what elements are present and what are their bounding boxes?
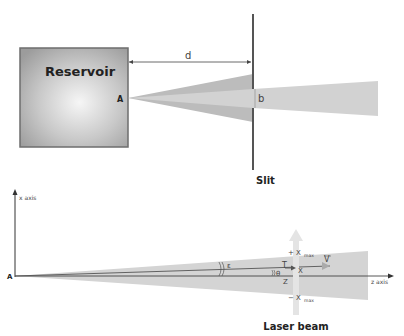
- arrowhead-right-icon: [247, 60, 251, 64]
- t-label: T: [281, 261, 287, 270]
- arrowhead-left-icon: [129, 60, 133, 64]
- x-max-minus-label: − X: [288, 294, 301, 302]
- theta-label: θ: [276, 270, 280, 278]
- z-axis-arrow-icon: [388, 274, 394, 279]
- x-max-minus-subscript: max: [304, 298, 314, 303]
- top-diagram: Reservoir A d b Slit: [20, 14, 378, 186]
- slit-label: Slit: [256, 175, 275, 186]
- point-a-label: A: [117, 95, 124, 104]
- slit-width-label: b: [258, 93, 264, 104]
- z-axis-label: z axis: [371, 278, 388, 285]
- x-axis-arrow-icon: [13, 189, 18, 195]
- reservoir-box: [20, 48, 128, 147]
- molecular-beam-diagram: Reservoir A d b Slit x axis z axis: [0, 0, 404, 336]
- reservoir-label: Reservoir: [45, 64, 116, 79]
- point-a-label-bottom: A: [7, 273, 13, 281]
- beam-cone: [15, 251, 368, 300]
- distance-label: d: [185, 50, 191, 61]
- transmitted-beam: [253, 81, 378, 116]
- laser-arrow-icon: [289, 229, 303, 241]
- epsilon-label: ε: [227, 262, 231, 270]
- x-axis-label: x axis: [19, 194, 36, 201]
- x-label: X: [298, 267, 303, 275]
- x-max-plus-label: + X: [288, 249, 301, 257]
- x-max-plus-subscript: max: [304, 253, 314, 258]
- z-label: Z: [283, 278, 288, 286]
- bottom-diagram: x axis z axis ε θ T V X Z + X max − X ma…: [7, 189, 394, 332]
- velocity-label: V: [324, 255, 330, 264]
- laser-beam-label: Laser beam: [263, 321, 328, 332]
